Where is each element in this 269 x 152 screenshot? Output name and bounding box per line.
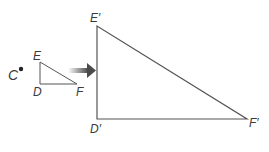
label-d: D <box>33 85 42 99</box>
label-c: C <box>8 67 19 83</box>
image-triangle <box>97 26 247 119</box>
label-e: E <box>33 49 42 63</box>
label-f-prime: F′ <box>249 116 259 130</box>
dilation-diagram: C E D F E′ D′ F′ <box>0 0 269 152</box>
label-d-prime: D′ <box>90 122 102 136</box>
dilation-arrow-icon <box>68 63 96 78</box>
label-f: F <box>76 85 84 99</box>
center-point-dot <box>19 67 23 71</box>
label-e-prime: E′ <box>90 11 101 25</box>
